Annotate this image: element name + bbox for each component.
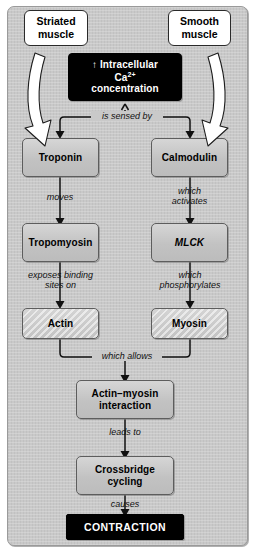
callout-striated-muscle: Striated muscle bbox=[24, 10, 88, 46]
callout-arrow-layer bbox=[0, 0, 255, 559]
smooth-muscle-block-arrow bbox=[202, 53, 228, 146]
callout-striated-muscle-label: Striated muscle bbox=[36, 15, 75, 40]
callout-smooth-muscle: Smooth muscle bbox=[168, 10, 231, 46]
striated-muscle-block-arrow bbox=[25, 53, 51, 146]
callout-smooth-muscle-label: Smooth muscle bbox=[180, 15, 219, 40]
diagram-canvas: Striated muscle Smooth muscle ↑ Intracel… bbox=[0, 0, 255, 559]
